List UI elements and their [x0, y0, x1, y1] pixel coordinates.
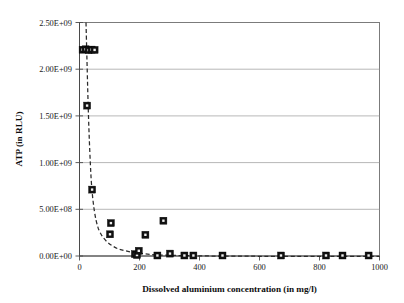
- plot-frame: [80, 23, 380, 257]
- x-tick-label: 600: [253, 263, 266, 272]
- gridlines: [80, 69, 380, 209]
- data-point-marker: [107, 220, 114, 227]
- data-point-marker: [84, 102, 91, 109]
- x-tick-labels: 0 200 400 600 800 1000: [77, 263, 387, 272]
- data-point-marker: [91, 46, 98, 53]
- data-point-marker: [278, 252, 285, 259]
- x-tick-label: 200: [133, 263, 146, 272]
- data-point-marker: [365, 252, 372, 259]
- x-axis-title: Dissolved aluminium concentration (in mg…: [142, 284, 317, 294]
- y-tick-label: 2.50E+09: [39, 19, 72, 28]
- x-tick-marks: [80, 256, 380, 261]
- x-tick-label: 800: [313, 263, 326, 272]
- data-point-marker: [167, 250, 174, 257]
- y-tick-label: 5.00E+08: [39, 205, 72, 214]
- chart-container: 0.00E+00 5.00E+08 1.00E+09 1.50E+09 2.00…: [0, 0, 404, 303]
- y-tick-label: 2.00E+09: [39, 65, 72, 74]
- x-tick-label: 0: [77, 263, 81, 272]
- y-tick-label: 0.00E+00: [39, 252, 72, 261]
- data-point-marker: [107, 231, 114, 238]
- data-points: [79, 46, 372, 259]
- trendline: [86, 23, 380, 257]
- data-point-marker: [160, 217, 167, 224]
- data-point-marker: [181, 252, 188, 259]
- x-tick-label: 400: [193, 263, 206, 272]
- scatter-plot: 0.00E+00 5.00E+08 1.00E+09 1.50E+09 2.00…: [0, 0, 404, 303]
- y-tick-label: 1.00E+09: [39, 159, 72, 168]
- data-point-marker: [339, 252, 346, 259]
- data-point-marker: [142, 231, 149, 238]
- data-point-marker: [323, 252, 330, 259]
- y-tick-label: 1.50E+09: [39, 112, 72, 121]
- data-point-marker: [190, 252, 197, 259]
- x-tick-label: 1000: [371, 263, 388, 272]
- y-axis-title: ATP (in RLU): [14, 112, 24, 167]
- data-point-marker: [219, 252, 226, 259]
- data-point-marker: [154, 252, 161, 259]
- y-tick-labels: 0.00E+00 5.00E+08 1.00E+09 1.50E+09 2.00…: [39, 19, 72, 262]
- data-point-marker: [135, 247, 142, 254]
- data-point-marker: [89, 186, 96, 193]
